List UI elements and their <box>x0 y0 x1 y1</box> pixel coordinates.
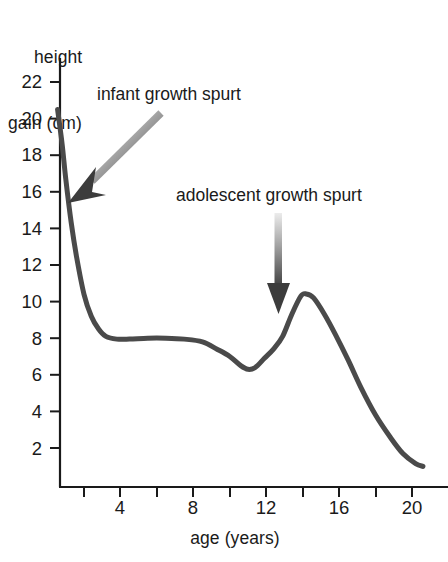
infant-growth-spurt-arrow-icon <box>68 113 161 203</box>
growth-velocity-chart: height gain (cm) age (years) 22 20 18 16… <box>0 0 448 562</box>
adolescent-growth-spurt-arrow-icon <box>267 213 290 314</box>
plot-area <box>0 0 448 562</box>
x-axis-ticks <box>84 487 412 497</box>
y-axis-ticks <box>50 82 60 448</box>
